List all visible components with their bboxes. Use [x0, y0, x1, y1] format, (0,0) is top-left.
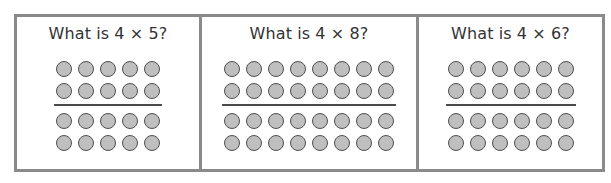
dot-circle-icon: [448, 135, 464, 151]
dot-circle-icon: [290, 113, 306, 129]
question-title: What is 4 × 5?: [17, 24, 199, 43]
dot-circle-icon: [470, 83, 486, 99]
dot-circle-icon: [268, 83, 284, 99]
dot-circle-icon: [448, 113, 464, 129]
array-divider-line: [222, 104, 396, 106]
dot-circle-icon: [536, 135, 552, 151]
dot-circle-icon: [448, 83, 464, 99]
dot-circle-icon: [558, 113, 574, 129]
question-title: What is 4 × 8?: [202, 24, 416, 43]
dot-circle-icon: [470, 61, 486, 77]
dot-circle-icon: [100, 61, 116, 77]
dot-row: [56, 83, 160, 99]
dot-row: [224, 83, 394, 99]
array-divider-line: [446, 104, 576, 106]
multiplication-arrays-figure: What is 4 × 5?What is 4 × 8?What is 4 × …: [14, 14, 605, 172]
dot-circle-icon: [492, 61, 508, 77]
dot-circle-icon: [448, 61, 464, 77]
dot-circle-icon: [514, 135, 530, 151]
dot-row: [448, 83, 574, 99]
dot-circle-icon: [378, 83, 394, 99]
dot-circle-icon: [122, 135, 138, 151]
dot-circle-icon: [334, 113, 350, 129]
dot-circle-icon: [246, 113, 262, 129]
dot-circle-icon: [312, 83, 328, 99]
dot-circle-icon: [492, 135, 508, 151]
dot-circle-icon: [144, 83, 160, 99]
dot-row: [56, 61, 160, 77]
dot-row: [224, 113, 394, 129]
dot-circle-icon: [144, 135, 160, 151]
question-panel-3: What is 4 × 6?: [416, 17, 602, 169]
dot-circle-icon: [78, 135, 94, 151]
dot-circle-icon: [334, 61, 350, 77]
dot-circle-icon: [356, 113, 372, 129]
dot-circle-icon: [100, 83, 116, 99]
dot-circle-icon: [492, 113, 508, 129]
dot-circle-icon: [558, 61, 574, 77]
dot-circle-icon: [144, 113, 160, 129]
dot-circle-icon: [122, 113, 138, 129]
dot-circle-icon: [312, 135, 328, 151]
dot-circle-icon: [470, 135, 486, 151]
dot-circle-icon: [246, 83, 262, 99]
dot-row: [224, 135, 394, 151]
dot-circle-icon: [536, 83, 552, 99]
dot-circle-icon: [224, 113, 240, 129]
dot-circle-icon: [290, 135, 306, 151]
dot-circle-icon: [144, 61, 160, 77]
dot-circle-icon: [378, 113, 394, 129]
question-title: What is 4 × 6?: [419, 24, 602, 43]
question-panel-2: What is 4 × 8?: [199, 17, 416, 169]
dot-row: [56, 135, 160, 151]
dot-circle-icon: [268, 135, 284, 151]
dot-circle-icon: [356, 61, 372, 77]
dot-circle-icon: [224, 135, 240, 151]
dot-circle-icon: [334, 83, 350, 99]
dot-row: [448, 135, 574, 151]
dot-row: [448, 113, 574, 129]
dot-circle-icon: [78, 113, 94, 129]
dot-row: [448, 61, 574, 77]
dot-circle-icon: [536, 113, 552, 129]
dot-circle-icon: [312, 113, 328, 129]
array-divider-line: [54, 104, 162, 106]
dot-circle-icon: [100, 135, 116, 151]
dot-array: [448, 61, 574, 157]
dot-circle-icon: [56, 61, 72, 77]
dot-circle-icon: [356, 83, 372, 99]
dot-circle-icon: [470, 113, 486, 129]
dot-circle-icon: [558, 135, 574, 151]
dot-circle-icon: [100, 113, 116, 129]
dot-row: [224, 61, 394, 77]
dot-circle-icon: [56, 83, 72, 99]
dot-circle-icon: [56, 135, 72, 151]
dot-circle-icon: [224, 61, 240, 77]
dot-circle-icon: [312, 61, 328, 77]
dot-circle-icon: [290, 61, 306, 77]
dot-circle-icon: [246, 135, 262, 151]
dot-circle-icon: [246, 61, 262, 77]
dot-circle-icon: [378, 135, 394, 151]
dot-circle-icon: [558, 83, 574, 99]
dot-circle-icon: [492, 83, 508, 99]
dot-circle-icon: [224, 83, 240, 99]
dot-circle-icon: [536, 61, 552, 77]
dot-circle-icon: [122, 83, 138, 99]
question-panel-1: What is 4 × 5?: [17, 17, 199, 169]
dot-array: [224, 61, 394, 157]
dot-circle-icon: [356, 135, 372, 151]
dot-circle-icon: [514, 83, 530, 99]
dot-circle-icon: [290, 83, 306, 99]
dot-array: [56, 61, 160, 157]
dot-circle-icon: [78, 83, 94, 99]
dot-circle-icon: [378, 61, 394, 77]
dot-circle-icon: [56, 113, 72, 129]
dot-circle-icon: [514, 61, 530, 77]
dot-circle-icon: [122, 61, 138, 77]
dot-row: [56, 113, 160, 129]
dot-circle-icon: [514, 113, 530, 129]
dot-circle-icon: [268, 113, 284, 129]
dot-circle-icon: [334, 135, 350, 151]
dot-circle-icon: [268, 61, 284, 77]
